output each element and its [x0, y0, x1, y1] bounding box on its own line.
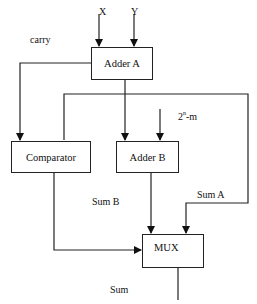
- sum-a-label: Sum A: [197, 189, 225, 200]
- sum-label: Sum: [110, 284, 128, 295]
- adder-a-block: Adder A: [91, 47, 153, 80]
- adder-b-label: Adder B: [130, 152, 166, 163]
- constant-label: 2n-m: [178, 110, 197, 122]
- mux-label: MUX: [154, 242, 179, 253]
- comparator-label: Comparator: [26, 152, 76, 163]
- carry-label: carry: [30, 34, 51, 45]
- mux-block: MUX: [142, 234, 204, 268]
- input-y-label: Y: [131, 6, 138, 17]
- comparator-block: Comparator: [11, 141, 91, 173]
- adder-a-label: Adder A: [104, 58, 140, 69]
- constant-rest: -m: [186, 111, 197, 122]
- sum-b-label: Sum B: [92, 196, 120, 207]
- adder-b-block: Adder B: [116, 141, 179, 173]
- input-x-label: X: [99, 6, 106, 17]
